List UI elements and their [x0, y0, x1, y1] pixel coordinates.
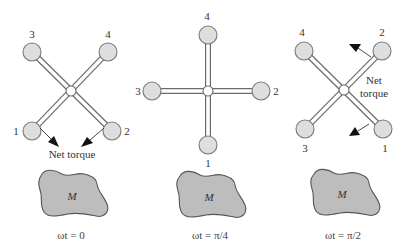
mass-3 — [296, 120, 314, 138]
torque-arrow-icon — [349, 44, 371, 57]
mass-label-3: 3 — [135, 85, 141, 97]
mass-3 — [23, 43, 41, 61]
mass-label-3: 3 — [29, 28, 35, 40]
gravity-gradient-torque-diagram: 3 4 1 2 Net torque M ωt = 0 4 3 2 — [0, 0, 413, 249]
panel-wt-pi-4: 4 3 2 1 M ωt = π/4 — [135, 10, 279, 241]
torque-arrow-icon — [81, 128, 104, 147]
mass-4 — [295, 42, 313, 60]
panel-caption: ωt = π/4 — [192, 229, 229, 241]
mass-4 — [99, 43, 117, 61]
mass-1 — [374, 120, 392, 138]
mass-1 — [23, 122, 41, 140]
mass-label-2: 2 — [124, 125, 130, 137]
mass-2 — [252, 82, 270, 100]
mass-4 — [199, 26, 217, 44]
mass-label-1: 1 — [382, 142, 388, 154]
panel-caption: ωt = 0 — [57, 229, 85, 241]
hub — [203, 86, 213, 96]
mass-body-label: M — [203, 191, 214, 203]
net-torque-label: Net torque — [49, 148, 96, 160]
mass-2 — [103, 122, 121, 140]
mass-label-4: 4 — [299, 26, 305, 38]
mass-label-4: 4 — [204, 10, 210, 22]
mass-label-1: 1 — [13, 125, 19, 137]
hub — [339, 85, 349, 95]
hub — [66, 86, 76, 96]
net-torque-label-line1: Net — [366, 74, 382, 86]
torque-arrow-icon — [349, 124, 369, 136]
mass-label-4: 4 — [105, 28, 111, 40]
mass-1 — [199, 136, 217, 154]
net-torque-label-line2: torque — [360, 87, 388, 99]
mass-label-2: 2 — [379, 26, 385, 38]
mass-label-1: 1 — [205, 157, 211, 169]
panel-wt-0: 3 4 1 2 Net torque M ωt = 0 — [13, 28, 130, 241]
mass-3 — [143, 82, 161, 100]
mass-body-label: M — [336, 188, 347, 200]
mass-2 — [373, 42, 391, 60]
panel-wt-pi-2: 4 2 3 1 Net torque M ωt = π/2 — [295, 26, 392, 241]
torque-arrow-icon — [40, 128, 59, 147]
mass-label-3: 3 — [302, 142, 308, 154]
mass-body-label: M — [66, 190, 77, 202]
panel-caption: ωt = π/2 — [325, 229, 361, 241]
mass-label-2: 2 — [273, 85, 279, 97]
